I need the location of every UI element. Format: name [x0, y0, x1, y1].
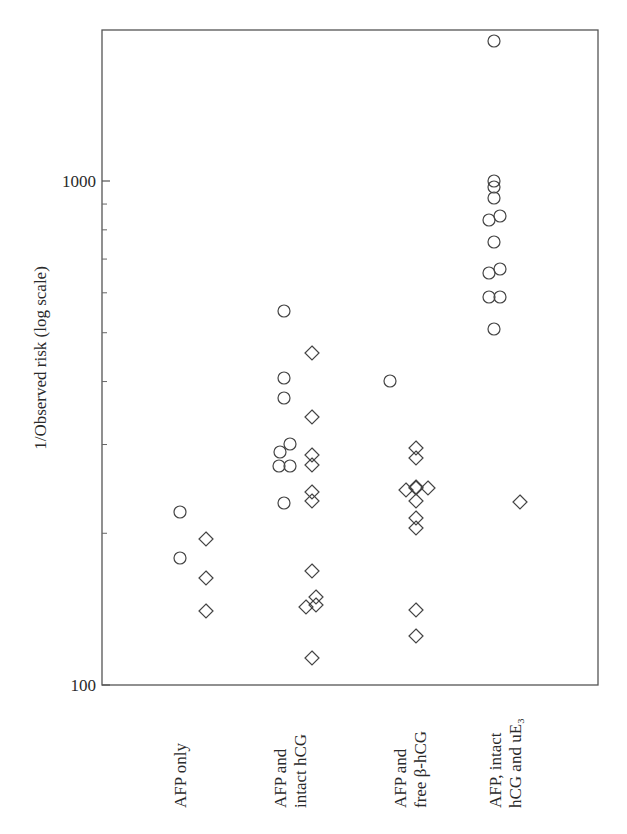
- circle-marker: [483, 214, 495, 226]
- circle-marker: [494, 291, 506, 303]
- category-label: hCG and uE₃: [506, 718, 525, 808]
- diamond-marker: [409, 441, 423, 455]
- category-label: intact hCG: [291, 734, 310, 808]
- diamond-marker: [199, 532, 213, 546]
- category-label: AFP, intact: [486, 732, 505, 808]
- circle-marker: [278, 497, 290, 509]
- scatter-chart: 1000 100 1/Observed risk (log scale) AFP…: [0, 0, 627, 834]
- circle-marker: [278, 372, 290, 384]
- x-category-labels: AFP onlyAFP andintact hCGAFP andfree β-h…: [171, 718, 525, 808]
- y-axis-ticks: [102, 181, 110, 685]
- diamond-marker: [409, 511, 423, 525]
- diamond-marker: [305, 485, 319, 499]
- diamond-marker: [309, 590, 323, 604]
- diamond-marker: [305, 564, 319, 578]
- diamond-marker: [409, 603, 423, 617]
- diamond-marker: [513, 495, 527, 509]
- diamond-marker: [305, 458, 319, 472]
- circle-marker: [488, 35, 500, 47]
- plot-frame: [102, 30, 598, 685]
- diamond-marker: [305, 448, 319, 462]
- y-tick-label-1000: 1000: [62, 172, 96, 191]
- y-axis-tick-labels: 1000 100: [62, 172, 96, 695]
- circle-marker: [273, 460, 285, 472]
- circle-marker: [488, 236, 500, 248]
- circle-marker: [494, 210, 506, 222]
- circle-marker: [274, 446, 286, 458]
- diamond-marker: [409, 451, 423, 465]
- diamond-marker: [409, 521, 423, 535]
- circle-marker: [488, 192, 500, 204]
- circle-marker: [483, 291, 495, 303]
- diamond-marker: [305, 494, 319, 508]
- y-axis-title: 1/Observed risk (log scale): [31, 266, 50, 450]
- diamond-marker: [305, 410, 319, 424]
- diamond-marker: [199, 571, 213, 585]
- category-label: AFP and: [391, 748, 410, 808]
- circle-marker: [488, 323, 500, 335]
- circle-marker: [284, 438, 296, 450]
- circle-marker: [278, 305, 290, 317]
- circle-marker: [174, 506, 186, 518]
- diamond-marker: [305, 651, 319, 665]
- diamond-marker: [409, 629, 423, 643]
- circle-marker: [494, 263, 506, 275]
- circle-marker: [174, 552, 186, 564]
- circle-marker: [284, 460, 296, 472]
- diamond-marker: [305, 346, 319, 360]
- circle-marker: [278, 392, 290, 404]
- circle-marker: [483, 267, 495, 279]
- category-label: AFP only: [171, 742, 190, 808]
- category-label: AFP and: [271, 748, 290, 808]
- diamond-marker: [199, 604, 213, 618]
- diamond-marker: [409, 494, 423, 508]
- circle-marker: [384, 375, 396, 387]
- y-tick-label-100: 100: [71, 676, 97, 695]
- data-markers: [174, 35, 527, 665]
- category-label: free β-hCG: [411, 731, 430, 808]
